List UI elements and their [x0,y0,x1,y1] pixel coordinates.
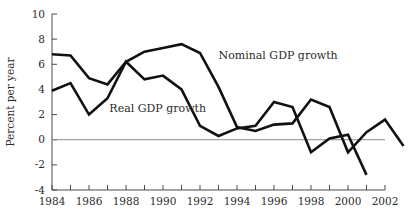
y-axis-tick-label: 4 [38,83,45,95]
chart-canvas: -4-2024681019841986198819901992199419961… [0,0,412,220]
real-gdp-growth-line [52,62,367,175]
y-axis-tick-label: 6 [38,58,45,70]
y-axis-tick-label: -2 [35,158,45,170]
x-axis-tick-label: 1996 [261,195,288,207]
real-gdp-growth-label: Real GDP growth [109,102,206,115]
x-axis-tick-label: 1984 [39,195,66,207]
x-axis-tick-label: 1992 [187,195,214,207]
y-axis-tick-label: 10 [32,8,45,20]
x-axis-tick-label: 1986 [76,195,103,207]
x-axis-tick-label: 1998 [298,195,325,207]
x-axis-tick-label: 2002 [372,195,399,207]
gdp-growth-chart: -4-2024681019841986198819901992199419961… [0,0,412,220]
x-axis-tick-label: 1990 [150,195,177,207]
y-axis-tick-label: -4 [35,184,46,196]
y-axis-tick-label: 0 [38,133,45,145]
x-axis-tick-label: 2000 [335,195,362,207]
nominal-gdp-growth-label: Nominal GDP growth [219,49,338,62]
y-axis-tick-label: 2 [38,108,45,120]
x-axis-tick-label: 1994 [224,195,251,207]
x-axis-tick-label: 1988 [113,195,140,207]
y-axis-title: Percent per year [4,57,16,147]
y-axis-tick-label: 8 [38,33,45,45]
